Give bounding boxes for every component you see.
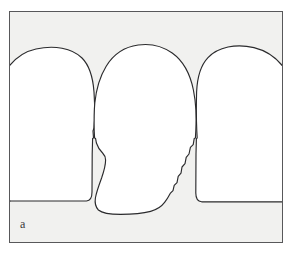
center-tooth-profile [94, 45, 196, 215]
tooth-profile-drawing [10, 12, 282, 242]
panel-frame: a [9, 11, 283, 243]
left-tooth-profile [10, 47, 95, 201]
figure-panel: a [0, 0, 293, 253]
right-tooth-profile [196, 46, 282, 202]
panel-label: a [20, 218, 26, 230]
